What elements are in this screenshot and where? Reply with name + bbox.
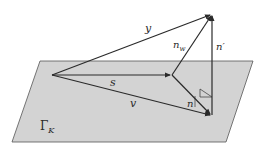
label-y: y [144,22,152,35]
label-n: n [187,98,193,109]
label-n-prime: n′ [216,41,225,52]
label-v: v [130,97,137,110]
label-n-w: nw [173,39,185,53]
label-s: s [110,76,116,89]
diagram-canvas: y s v n nw n′ ΓK [0,0,263,150]
